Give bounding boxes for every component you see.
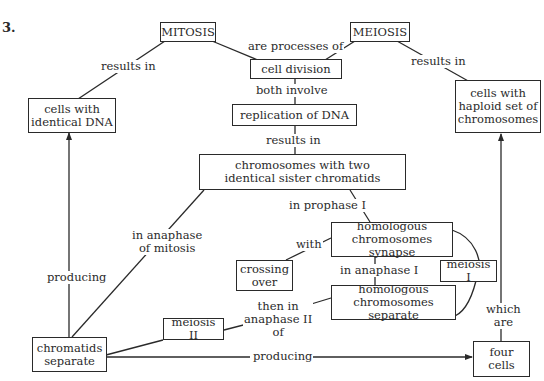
node-meiosis-1: meiosis I (440, 260, 497, 282)
node-homologous-synapse: homologous chromosomes synapse (331, 222, 453, 257)
node-meiosis: MEIOSIS (350, 22, 410, 42)
link-then-in-anaphase-2-of: then in anaphase II of (243, 300, 313, 339)
node-four-cells: four cells (473, 341, 530, 377)
node-meiosis-2: meiosis II (163, 318, 224, 340)
link-in-anaphase-1: in anaphase I (339, 264, 419, 277)
link-in-prophase-1: in prophase I (288, 199, 367, 212)
node-chromosomes-two-chromatids: chromosomes with two identical sister ch… (199, 154, 406, 190)
link-in-anaphase-of-mitosis: in anaphase of mitosis (131, 229, 203, 255)
link-which-are: which are (485, 303, 522, 329)
node-cells-identical-dna: cells with identical DNA (28, 98, 116, 133)
node-cells-haploid: cells with haploid set of chromosomes (455, 80, 541, 133)
link-mitosis-results-in: results in (100, 60, 157, 73)
question-number: 3. (2, 20, 16, 35)
link-replication-results-in: results in (265, 134, 322, 147)
node-homologous-separate: homologous chromosomes separate (331, 285, 456, 320)
link-both-involve: both involve (255, 84, 328, 97)
node-mitosis: MITOSIS (160, 22, 216, 42)
node-replication-dna: replication of DNA (232, 104, 357, 126)
link-with: with (295, 238, 323, 251)
node-chromatids-separate: chromatids separate (32, 337, 107, 372)
link-producing-right: producing (252, 350, 313, 363)
link-are-processes-of: are processes of (247, 40, 344, 53)
node-cell-division: cell division (250, 59, 342, 79)
link-meiosis-results-in: results in (410, 55, 467, 68)
link-producing-up: producing (46, 271, 107, 284)
node-crossing-over: crossing over (236, 260, 293, 291)
